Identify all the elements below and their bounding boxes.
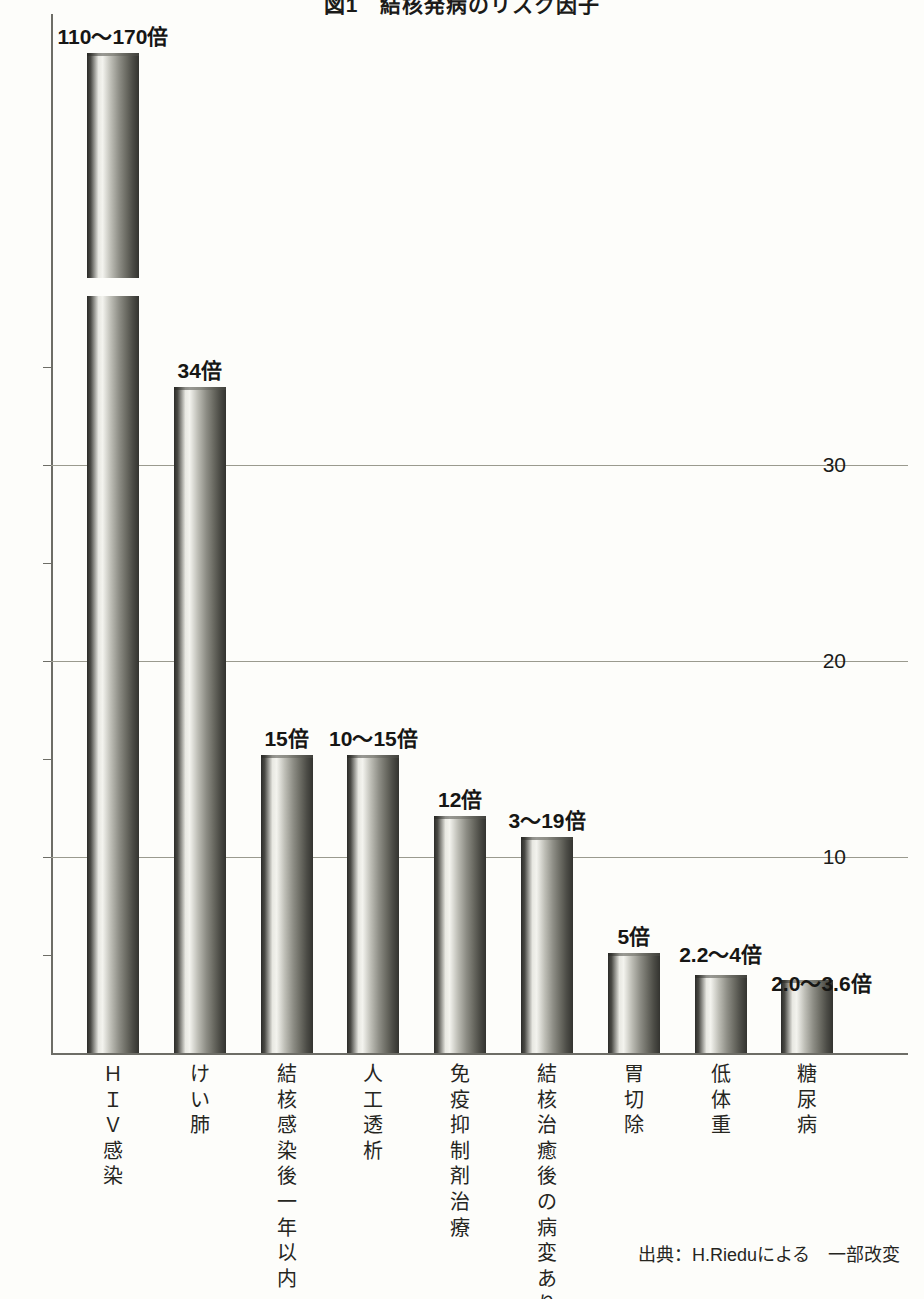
bar-value-label: 2.0〜3.6倍 [771,967,871,997]
y-axis-minor-tick [43,465,51,466]
category-label-char: Ｈ [100,1062,126,1088]
y-axis-minor-tick [43,955,51,956]
bar [434,816,486,1053]
category-label-char: 内 [274,1267,300,1293]
category-label-char: 透 [360,1113,386,1139]
category-label-char: 工 [360,1088,386,1114]
bar-value-label: 15倍 [264,722,308,752]
x-axis-line [51,1053,908,1055]
category-label-char: 後 [274,1164,300,1190]
category-label-char: 染 [100,1164,126,1190]
category-label-char: り [534,1292,560,1299]
category-label-char: 年 [274,1216,300,1242]
bar [87,53,139,1053]
y-axis-minor-tick [43,857,51,858]
source-note: 出典：H.Rieduによる 一部改変 [638,1240,900,1266]
category-label-char: 以 [274,1241,300,1267]
category-label-char: 胃 [621,1062,647,1088]
category-label: ＨＩＶ感染 [100,1062,126,1190]
category-label-char: 感 [274,1113,300,1139]
chart-page: 図1 結核発病のリスク因子 102030 110〜170倍34倍15倍10〜15… [0,0,924,1299]
bar [695,975,747,1053]
category-label: 結核治癒後の病変あり [534,1062,560,1299]
y-axis-minor-tick [43,759,51,760]
category-label-char: 治 [534,1113,560,1139]
category-label: けい肺 [187,1062,213,1139]
category-label-char: 人 [360,1062,386,1088]
category-label-char: 結 [534,1062,560,1088]
category-label-char: 療 [447,1216,473,1242]
category-label-char: 核 [274,1088,300,1114]
category-label-char: 変 [534,1241,560,1267]
bar [521,837,573,1053]
bar-value-label: 34倍 [178,354,222,384]
category-label-char: 治 [447,1190,473,1216]
category-label-char: Ｉ [100,1088,126,1114]
category-label-char: い [187,1088,213,1114]
category-label-char: 疫 [447,1088,473,1114]
y-axis-minor-tick [43,367,51,368]
category-label: 低体重 [708,1062,734,1139]
plot-area: 102030 110〜170倍34倍15倍10〜15倍12倍3〜19倍5倍2.2… [51,14,908,1055]
bar [261,755,313,1053]
category-label-char: 体 [708,1088,734,1114]
category-label-char: 後 [534,1164,560,1190]
category-label-char: 剤 [447,1164,473,1190]
category-label-char: 析 [360,1139,386,1165]
category-label: 免疫抑制剤治療 [447,1062,473,1241]
category-label-char: 一 [274,1190,300,1216]
category-label-char: 重 [708,1113,734,1139]
bar-value-label: 2.2〜4倍 [679,938,762,968]
category-label-char: あ [534,1267,560,1293]
category-label-char: 染 [274,1139,300,1165]
bar-value-label: 5倍 [617,920,650,950]
category-label-char: 低 [708,1062,734,1088]
y-axis-tick-label: 10 [802,845,846,869]
category-label-char: 尿 [794,1088,820,1114]
category-label-char: 感 [100,1139,126,1165]
category-label-char: 抑 [447,1113,473,1139]
category-label-char: 免 [447,1062,473,1088]
bar [174,387,226,1053]
y-axis-line [51,14,53,1055]
bar-value-label: 3〜19倍 [508,804,585,834]
bar [347,755,399,1053]
category-label-char: 除 [621,1113,647,1139]
category-label-char: 病 [534,1216,560,1242]
y-axis-tick-label: 30 [802,453,846,477]
category-label: 人工透析 [360,1062,386,1164]
y-axis-minor-tick [43,563,51,564]
y-axis-minor-tick [43,661,51,662]
category-label-char: 癒 [534,1139,560,1165]
bar-value-label: 10〜15倍 [329,722,418,752]
category-label-char: け [187,1062,213,1088]
category-label-char: の [534,1190,560,1216]
bar-value-label: 12倍 [438,783,482,813]
category-label-char: 制 [447,1139,473,1165]
category-label: 胃切除 [621,1062,647,1139]
y-axis-tick-label: 20 [802,649,846,673]
category-label-char: 切 [621,1088,647,1114]
bar [608,953,660,1053]
bar-value-label: 110〜170倍 [58,20,169,50]
category-label-char: Ｖ [100,1113,126,1139]
category-label-char: 糖 [794,1062,820,1088]
category-label: 糖尿病 [794,1062,820,1139]
category-label-char: 肺 [187,1113,213,1139]
category-label-char: 核 [534,1088,560,1114]
axis-break-marker [84,278,142,296]
category-label-char: 病 [794,1113,820,1139]
category-label-char: 結 [274,1062,300,1088]
category-label: 結核感染後一年以内 [274,1062,300,1292]
